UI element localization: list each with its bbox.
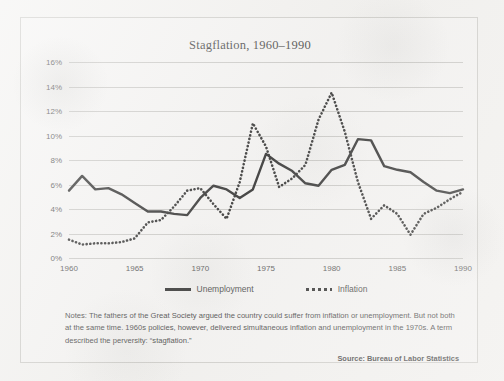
legend-swatch-solid-line-icon xyxy=(165,288,191,291)
y-axis-tick-label: 14% xyxy=(46,82,62,91)
x-axis-tick-label: 1965 xyxy=(126,264,144,273)
series-line-inflation xyxy=(69,93,463,245)
x-axis-tick-label: 1970 xyxy=(191,264,209,273)
x-axis-tick-label: 1975 xyxy=(257,264,275,273)
legend-item-inflation: Inflation xyxy=(306,284,368,294)
x-axis-tick-label: 1990 xyxy=(454,264,472,273)
chart-title: Stagflation, 1960–1990 xyxy=(21,38,479,53)
x-axis-tick-label: 1960 xyxy=(60,264,78,273)
y-axis-tick-label: 16% xyxy=(46,58,62,67)
gridline xyxy=(69,258,463,259)
y-axis-tick-label: 12% xyxy=(46,107,62,116)
legend-label-inflation: Inflation xyxy=(338,284,368,294)
legend-label-unemployment: Unemployment xyxy=(197,284,254,294)
x-axis-tick-label: 1985 xyxy=(388,264,406,273)
chart-frame: Stagflation, 1960–1990 0%2%4%6%8%10%12%1… xyxy=(20,17,478,363)
plot-area: 0%2%4%6%8%10%12%14%16% 19601965197019751… xyxy=(69,62,463,258)
chart-notes: Notes: The fathers of the Great Society … xyxy=(65,310,457,347)
y-axis-tick-label: 10% xyxy=(46,131,62,140)
y-axis-tick-label: 6% xyxy=(50,180,62,189)
y-axis-tick-label: 2% xyxy=(50,229,62,238)
chart-legend: Unemployment Inflation xyxy=(69,284,463,294)
legend-item-unemployment: Unemployment xyxy=(165,284,254,294)
chart-source: Source: Bureau of Labor Statistics xyxy=(337,354,459,363)
x-axis-tick-label: 1980 xyxy=(323,264,341,273)
legend-swatch-dotted-line-icon xyxy=(306,288,332,291)
y-axis-tick-label: 0% xyxy=(50,254,62,263)
series-lines xyxy=(69,62,463,258)
y-axis-tick-label: 4% xyxy=(50,205,62,214)
series-line-unemployment xyxy=(69,139,463,215)
y-axis-tick-label: 8% xyxy=(50,156,62,165)
